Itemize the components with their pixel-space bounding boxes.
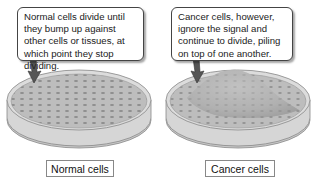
- normal-cells-label: Normal cells: [46, 160, 114, 177]
- normal-cells-panel: Normal cells divide until they bump up a…: [0, 0, 159, 187]
- cancer-petri-dish: [159, 60, 318, 160]
- cancer-cells-label: Cancer cells: [205, 160, 275, 177]
- normal-petri-dish: [0, 60, 159, 160]
- cancer-cells-callout: Cancer cells, however, ignore the signal…: [171, 7, 293, 61]
- cancer-cells-panel: Cancer cells, however, ignore the signal…: [159, 0, 318, 187]
- normal-cells-callout: Normal cells divide until they bump up a…: [17, 7, 144, 61]
- pointer-arrow-icon: [189, 58, 205, 84]
